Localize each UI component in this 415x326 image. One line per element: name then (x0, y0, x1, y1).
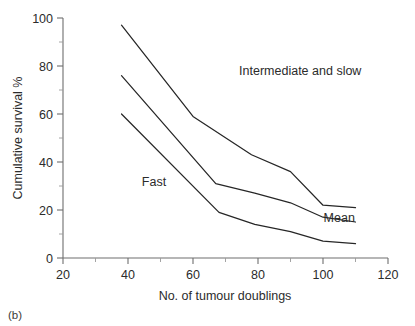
x-tick-label: 60 (186, 268, 200, 282)
annotation-intermediate-and-slow: Intermediate and slow (239, 64, 362, 78)
x-axis-tick-labels: 20406080100120 (56, 268, 398, 282)
y-axis: 020406080100 Cumulative survival % (11, 12, 63, 266)
x-tick-label: 100 (313, 268, 334, 282)
y-tick-label: 100 (32, 12, 53, 26)
y-axis-title: Cumulative survival % (11, 77, 25, 200)
y-tick-label: 60 (39, 108, 53, 122)
x-tick-label: 20 (56, 268, 70, 282)
x-axis: 20406080100120 No. of tumour doublings (56, 258, 398, 303)
y-tick-label: 0 (46, 252, 53, 266)
y-axis-tick-labels: 020406080100 (32, 12, 53, 266)
y-tick-label: 40 (39, 156, 53, 170)
y-tick-label: 80 (39, 60, 53, 74)
x-tick-label: 120 (378, 268, 399, 282)
x-axis-minor-ticks (96, 258, 356, 262)
y-axis-minor-ticks (59, 42, 63, 234)
x-axis-title: No. of tumour doublings (159, 289, 292, 303)
x-tick-label: 80 (251, 268, 265, 282)
chart-canvas: 020406080100 Cumulative survival % 20406… (0, 0, 415, 326)
figure-panel: 020406080100 Cumulative survival % 20406… (0, 0, 415, 326)
annotation-fast: Fast (142, 175, 167, 189)
series-annotations-group: Intermediate and slowFastMean (142, 64, 363, 224)
x-tick-label: 40 (121, 268, 135, 282)
annotation-mean: Mean (324, 211, 355, 225)
series-lines-group (122, 25, 356, 243)
y-tick-label: 20 (39, 204, 53, 218)
